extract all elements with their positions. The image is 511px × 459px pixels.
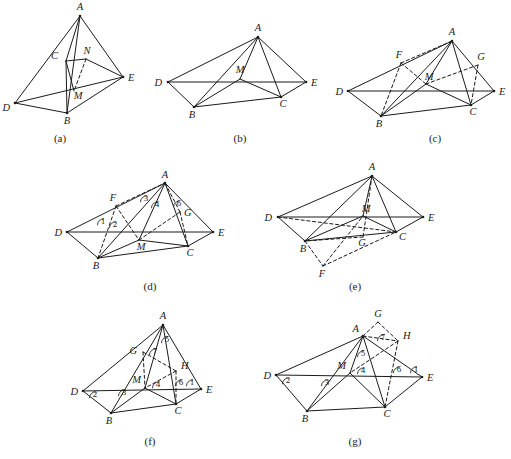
vertex-label-M: M [336,360,347,371]
vertex-dot-B [304,240,307,243]
vertex-label-E: E [310,77,318,88]
vertex-label-C: C [174,405,182,416]
angle-number-1: 1 [190,377,195,387]
edge-CE [281,82,306,97]
edge-BC [66,61,67,113]
edge-DB [168,82,194,107]
dashed-edge-HM [145,371,176,388]
edge-AC [372,176,396,232]
edge-AB [307,336,363,411]
vertex-label-D: D [334,86,343,97]
vertex-label-D: D [153,77,162,88]
edge-CE [385,377,422,407]
edge-AD [168,37,258,82]
vertex-label-B: B [189,109,196,120]
panel-b: ADMECB(b) [153,22,318,145]
vertex-dot-D [347,90,350,93]
vertex-label-B: B [106,415,113,426]
vertex-dot-D [66,231,69,234]
angle-number-1: 1 [101,216,106,226]
panel-caption-d: (d) [144,280,157,293]
vertex-dot-A [162,324,165,327]
edge-DB [276,375,307,411]
panel-a: ACNEMDB(a) [1,1,135,145]
edge-AD [83,325,163,391]
dashed-edge-GH [143,352,176,371]
angle-number-3: 3 [325,377,330,387]
edge-CM [66,61,74,91]
edge-CM [363,216,396,232]
panel-caption-f: (f) [145,435,156,448]
edge-AB [111,325,163,413]
vertex-label-M: M [136,241,147,252]
vertex-dot-A [362,335,365,338]
panel-caption-e: (e) [349,280,362,293]
edge-CN [66,59,86,61]
vertex-label-A: A [161,169,169,180]
edge-AE [372,176,423,217]
angle-number-5: 5 [165,334,170,344]
edge-AD [278,176,372,217]
edge-DB [67,232,98,258]
vertex-dot-E [422,216,425,219]
edge-DB [348,91,381,116]
vertex-dot-E [421,376,424,379]
vertex-label-G: G [358,237,366,248]
vertex-dot-B [110,412,113,415]
vertex-dot-A [451,40,454,43]
vertex-label-B: B [300,243,307,254]
panel-caption-b: (b) [234,132,247,145]
dashed-edge-DC [278,217,396,232]
vertex-label-H: H [402,330,412,341]
angle-number-2: 2 [93,389,98,399]
dashed-edge-GM [426,65,478,84]
edge-DB [278,217,305,241]
vertex-label-B: B [93,260,100,271]
dashed-edge-BF [305,241,323,266]
angle-number-3: 3 [144,193,149,203]
vertex-label-C: C [279,98,287,109]
edge-CE [188,232,213,246]
edge-CE [471,91,494,105]
edge-AD [276,336,363,375]
angle-number-4: 4 [361,365,366,375]
vertex-dot-E [200,388,203,391]
vertex-label-M: M [424,71,435,82]
edge-AE [452,41,494,91]
vertex-label-M: M [131,374,142,385]
vertex-label-G: G [129,345,137,356]
edge-CM [139,240,188,246]
edge-AB [194,37,258,107]
vertex-dot-D [275,374,278,377]
vertex-label-F: F [395,49,403,60]
edge-CE [396,217,423,232]
panel-f: AGHDMECB5723461(f) [69,310,213,448]
vertex-label-F: F [109,192,117,203]
vertex-label-E: E [498,86,506,97]
vertex-label-E: E [127,72,135,83]
vertex-label-N: N [82,45,91,56]
edge-AB [381,41,452,116]
vertex-label-C: C [186,247,194,258]
vertex-label-G: G [374,308,382,319]
dashed-edge-GC [471,65,478,105]
vertex-label-A: A [352,323,360,334]
edge-NE [86,59,123,77]
vertex-dot-B [380,115,383,118]
edge-AC [66,16,80,61]
figure-sheet: ACNEMDB(a)ADMECB(b)AFGDMECB(c)AFGDMECB12… [0,0,511,459]
vertex-label-A: A [159,310,167,321]
vertex-label-G: G [184,207,192,218]
angle-number-7: 7 [381,332,386,342]
vertex-label-M: M [73,90,84,101]
panel-caption-a: (a) [54,132,67,145]
vertex-label-F: F [318,268,326,279]
edge-AM [139,183,165,240]
angle-number-1: 1 [414,364,419,374]
geometry-figure-svg: ACNEMDB(a)ADMECB(b)AFGDMECB(c)AFGDMECB12… [0,0,511,459]
edge-BC [305,232,396,241]
vertex-label-A: A [368,161,376,172]
panel-caption-c: (c) [429,132,442,145]
angle-number-6: 6 [179,377,184,387]
edge-AB [98,183,165,258]
